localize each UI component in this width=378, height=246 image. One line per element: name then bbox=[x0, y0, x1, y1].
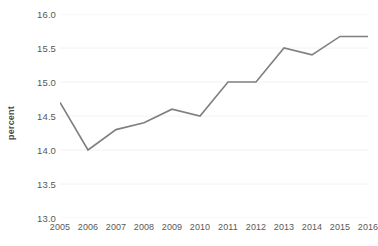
x-axis-tick-label: 2015 bbox=[330, 222, 350, 232]
plot-area bbox=[60, 14, 368, 218]
y-axis-tick-label: 14.0 bbox=[37, 145, 56, 156]
x-axis-tick-label: 2013 bbox=[274, 222, 294, 232]
x-axis-tick-label: 2008 bbox=[134, 222, 154, 232]
x-axis-tick-label: 2011 bbox=[218, 222, 238, 232]
x-axis-tick-label: 2014 bbox=[302, 222, 322, 232]
y-axis-title: percent bbox=[0, 0, 22, 246]
data-series-line bbox=[60, 14, 368, 218]
x-axis-tick-label: 2016 bbox=[358, 222, 378, 232]
x-axis-tick-label: 2007 bbox=[106, 222, 126, 232]
y-axis-tick-labels: 16.015.515.014.514.013.513.0 bbox=[22, 14, 56, 218]
x-axis-tick-label: 2006 bbox=[78, 222, 98, 232]
x-axis-tick-label: 2009 bbox=[162, 222, 182, 232]
y-axis-tick-label: 14.5 bbox=[37, 111, 56, 122]
series-percent-line bbox=[60, 36, 368, 150]
x-axis-tick-labels: 2005200620072008200920102011201220132014… bbox=[60, 222, 368, 240]
x-axis-tick-label: 2005 bbox=[50, 222, 70, 232]
y-axis-tick-label: 16.0 bbox=[37, 9, 56, 20]
y-axis-tick-label: 15.0 bbox=[37, 77, 56, 88]
x-axis-tick-label: 2010 bbox=[190, 222, 210, 232]
x-axis-tick-label: 2012 bbox=[246, 222, 266, 232]
y-axis-tick-label: 15.5 bbox=[37, 43, 56, 54]
y-axis-tick-label: 13.5 bbox=[37, 179, 56, 190]
